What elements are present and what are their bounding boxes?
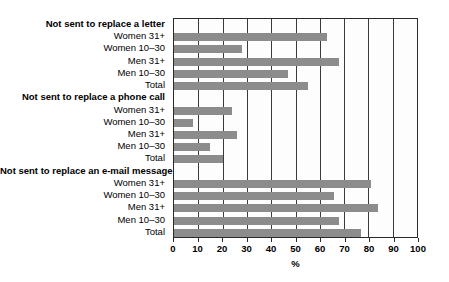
category-label: Men 31+ (0, 55, 170, 67)
bar-row (174, 31, 417, 43)
plot-area (173, 18, 418, 238)
axis-tick-label: 70 (339, 243, 350, 254)
bar (174, 33, 327, 41)
axis-tick-label: 60 (315, 243, 326, 254)
axis-tick-label: 20 (217, 243, 228, 254)
bar (174, 204, 378, 212)
bar (174, 155, 223, 163)
bar-row (174, 202, 417, 214)
bar-row (174, 178, 417, 190)
bar (174, 180, 371, 188)
bar (174, 192, 334, 200)
axis-tick (369, 238, 370, 242)
category-label: Women 10–30 (0, 189, 170, 201)
category-label: Women 31+ (0, 177, 170, 189)
axis-tick-label: 50 (290, 243, 301, 254)
bar-series (174, 19, 417, 237)
bar (174, 119, 193, 127)
axis-tick (296, 238, 297, 242)
axis-tick-label: 30 (241, 243, 252, 254)
category-label: Total (0, 152, 170, 164)
axis-tick (173, 238, 174, 242)
bar (174, 58, 339, 66)
category-label: Men 31+ (0, 201, 170, 213)
axis-tick (320, 238, 321, 242)
bar-row (174, 153, 417, 165)
axis-tick-label: 100 (410, 243, 426, 254)
axis-tick-label: 0 (170, 243, 175, 254)
bar (174, 107, 232, 115)
axis-tick-label: 80 (364, 243, 375, 254)
axis-tick (271, 238, 272, 242)
category-label: Total (0, 79, 170, 91)
bar-row (174, 215, 417, 227)
axis-tick (198, 238, 199, 242)
category-label: Women 31+ (0, 104, 170, 116)
category-label: Women 10–30 (0, 42, 170, 54)
bar-row (174, 105, 417, 117)
bar-row (174, 129, 417, 141)
axis-tick-label: 40 (266, 243, 277, 254)
bar (174, 229, 361, 237)
category-label: Total (0, 226, 170, 238)
bar (174, 82, 308, 90)
axis-tick-label: 10 (192, 243, 203, 254)
bar-row (174, 190, 417, 202)
bar-row (174, 43, 417, 55)
bar (174, 45, 242, 53)
bar (174, 131, 237, 139)
category-label: Women 31+ (0, 30, 170, 42)
bar-row (174, 117, 417, 129)
group-header-row (174, 19, 417, 31)
x-axis-label: % (173, 258, 418, 269)
category-label: Men 10–30 (0, 214, 170, 226)
axis-tick-label: 90 (388, 243, 399, 254)
category-label-column: Not sent to replace a letterWomen 31+Wom… (0, 18, 170, 238)
axis-tick (222, 238, 223, 242)
group-header-row (174, 92, 417, 104)
group-header-label: Not sent to replace a letter (0, 18, 170, 30)
bar (174, 70, 288, 78)
bar-row (174, 80, 417, 92)
axis-tick (247, 238, 248, 242)
group-header-label: Not sent to replace a phone call (0, 91, 170, 103)
axis-tick (394, 238, 395, 242)
bar (174, 143, 210, 151)
bar (174, 217, 339, 225)
category-label: Women 10–30 (0, 116, 170, 128)
bar-row (174, 141, 417, 153)
category-label: Men 31+ (0, 128, 170, 140)
bar-row (174, 68, 417, 80)
bar-chart: Not sent to replace a letterWomen 31+Wom… (0, 0, 449, 282)
group-header-label: Not sent to replace an e-mail message (0, 165, 170, 177)
category-label: Men 10–30 (0, 67, 170, 79)
category-label: Men 10–30 (0, 140, 170, 152)
group-header-row (174, 166, 417, 178)
axis-tick (418, 238, 419, 242)
axis-tick (345, 238, 346, 242)
bar-row (174, 56, 417, 68)
